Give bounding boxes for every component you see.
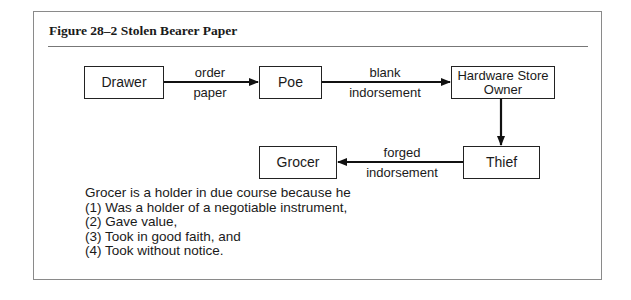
notes-line: Grocer is a holder in due course because… <box>85 186 351 201</box>
notes-line: (2) Gave value, <box>85 215 351 230</box>
edge-label-indorsement: indorsement <box>349 85 421 100</box>
notes-line: (3) Took in good faith, and <box>85 230 351 245</box>
holder-in-due-course-notes: Grocer is a holder in due course because… <box>85 186 351 259</box>
edge-label-forged: forged <box>384 145 421 160</box>
edge-label-paper: paper <box>193 85 226 100</box>
notes-line: (4) Took without notice. <box>85 244 351 259</box>
node-grocer: Grocer <box>259 146 337 179</box>
edge-label-blank: blank <box>369 65 400 80</box>
edge-label-forged-indorsement: indorsement <box>366 165 438 180</box>
node-thief: Thief <box>463 146 540 179</box>
node-poe: Poe <box>259 66 322 99</box>
edge-label-order: order <box>195 65 225 80</box>
notes-line: (1) Was a holder of a negotiable instrum… <box>85 201 351 216</box>
node-drawer: Drawer <box>84 66 164 99</box>
node-hardware-store-owner: Hardware Store Owner <box>451 66 555 99</box>
